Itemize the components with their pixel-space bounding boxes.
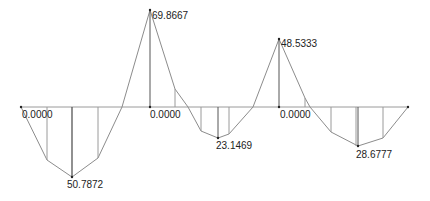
label-support2-peak: 69.8667	[152, 10, 189, 21]
marker-span3-max	[357, 145, 359, 147]
label-span1-max: 50.7872	[67, 179, 104, 190]
marker-support4	[407, 106, 409, 108]
label-support1: 0.0000	[22, 109, 53, 120]
label-span3-max: 28.6777	[356, 149, 393, 160]
marker-support1	[20, 106, 22, 108]
label-support3: 0.0000	[280, 109, 311, 120]
marker-support2-peak	[149, 9, 151, 11]
label-support3-peak: 48.5333	[281, 38, 318, 49]
label-support2: 0.0000	[150, 109, 181, 120]
marker-span1-max	[71, 176, 73, 178]
marker-support2	[149, 106, 151, 108]
marker-support3-peak	[278, 38, 280, 40]
marker-span2-max	[217, 137, 219, 139]
marker-support3	[278, 106, 280, 108]
moment-curve	[21, 10, 408, 177]
moment-diagram: 0.0000 50.7872 69.8667 0.0000 23.1469 48…	[0, 0, 430, 201]
label-span2-max: 23.1469	[216, 140, 253, 151]
